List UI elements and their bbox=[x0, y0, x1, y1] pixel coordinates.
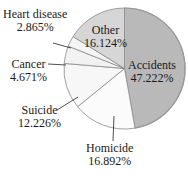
label-accidents: Accidents 47.222% bbox=[128, 59, 176, 85]
label-homicide: Homicide 16.892% bbox=[86, 142, 133, 168]
label-cancer: Cancer 4.671% bbox=[10, 58, 47, 84]
label-suicide: Suicide 12.226% bbox=[18, 104, 61, 130]
leader-cancer bbox=[48, 64, 66, 65]
heart-disease-pct: 2.865% bbox=[3, 21, 67, 34]
accidents-pct: 47.222% bbox=[128, 72, 176, 85]
cancer-pct: 4.671% bbox=[10, 71, 47, 84]
homicide-pct: 16.892% bbox=[86, 155, 133, 168]
label-other: Other 16.124% bbox=[84, 24, 127, 50]
label-heart-disease: Heart disease 2.865% bbox=[3, 8, 67, 34]
suicide-pct: 12.226% bbox=[18, 117, 61, 130]
other-pct: 16.124% bbox=[84, 37, 127, 50]
